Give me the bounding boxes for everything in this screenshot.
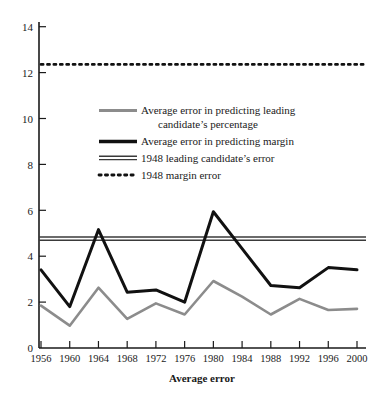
legend-label-1-line-2: candidate’s percentage [158,118,258,130]
x-label-1956: 1956 [31,353,52,364]
x-label-1980: 1980 [203,353,224,364]
x-label-1988: 1988 [260,353,281,364]
y-label-6: 6 [28,205,34,217]
x-label-1976: 1976 [174,353,195,364]
x-axis-title: Average error [169,372,235,384]
x-label-1968: 1968 [117,353,138,364]
x-label-1984: 1984 [232,353,254,364]
y-label-4: 4 [28,250,34,262]
y-label-12: 12 [22,67,33,79]
legend-label-1-line-1: Average error in predicting leading [141,104,296,116]
y-label-14: 14 [22,21,34,33]
chart-container: 14 12 10 8 6 4 2 0 195619601964196819721… [0,0,379,401]
x-label-1960: 1960 [59,353,80,364]
chart-background [0,0,379,401]
y-label-8: 8 [28,159,34,171]
x-label-1972: 1972 [145,353,166,364]
line-chart: 14 12 10 8 6 4 2 0 195619601964196819721… [0,0,379,401]
y-label-10: 10 [22,113,34,125]
y-label-2: 2 [28,296,34,308]
legend-label-2: Average error in predicting margin [141,135,294,147]
legend-label-4: 1948 margin error [141,169,221,181]
x-label-1992: 1992 [289,353,310,364]
x-label-2000: 2000 [347,353,368,364]
x-label-1964: 1964 [88,353,110,364]
legend-label-3: 1948 leading candidate’s error [141,152,275,164]
x-label-1996: 1996 [318,353,339,364]
